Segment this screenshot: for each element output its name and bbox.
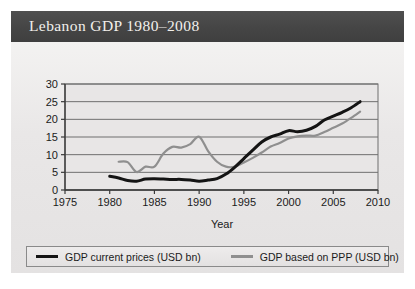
x-axis-tick-label: 1975 [53,196,77,208]
y-axis-tick-label: 5 [52,166,58,178]
legend-label-gdp-current-prices: GDP current prices (USD bn) [65,251,201,263]
x-axis-tick-label: 1990 [187,196,211,208]
legend-line-swatch-icon [231,255,253,258]
legend-label-gdp-ppp: GDP based on PPP (USD bn) [260,251,399,263]
x-axis-tick-label: 2005 [321,196,345,208]
y-axis-tick-label: 0 [52,184,58,196]
y-axis-tick-label: 20 [46,113,58,125]
legend-item-gdp-ppp: GDP based on PPP (USD bn) [231,251,399,263]
x-axis-tick-label: 1985 [142,196,166,208]
legend-line-swatch-icon [36,255,58,258]
y-axis-tick-labels: 051015202530 [46,78,58,196]
x-axis-tick-label: 1995 [232,196,256,208]
x-axis-tick-label: 2000 [276,196,300,208]
y-axis-tick-label: 10 [46,149,58,161]
x-axis-tick-labels: 19751980198519901995200020052010 [53,196,390,208]
legend-item-gdp-current-prices: GDP current prices (USD bn) [36,251,201,263]
x-axis-tick-label: 1980 [97,196,121,208]
gridlines [65,84,378,190]
x-axis-tick-label: 2010 [366,196,390,208]
y-axis-tick-label: 30 [46,78,58,90]
y-axis-tick-label: 25 [46,96,58,108]
x-axis-title: Year [211,218,234,230]
chart-legend: GDP current prices (USD bn) GDP based on… [26,246,389,267]
y-axis-tick-label: 15 [46,131,58,143]
chart-figure: Lebanon GDP 1980–2008 197519801985199019… [0,0,415,289]
